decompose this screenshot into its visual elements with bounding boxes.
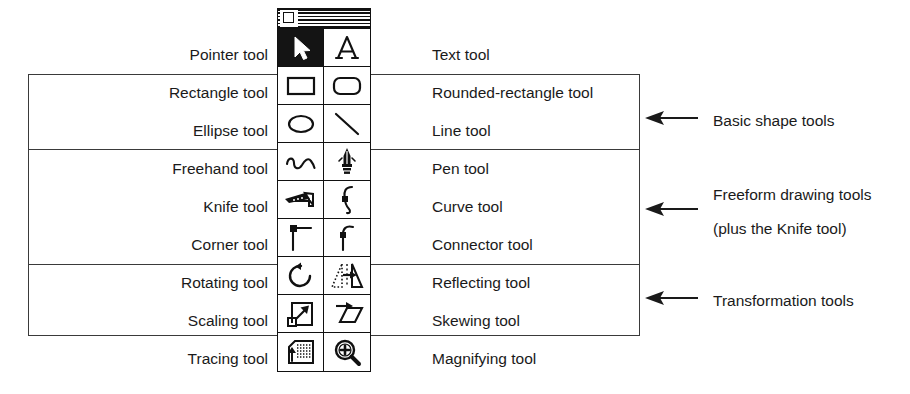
label-ellipse-tool: Ellipse tool [40, 112, 268, 150]
tool-cell-pointer[interactable] [278, 29, 324, 67]
close-box-icon[interactable] [283, 12, 294, 23]
magnifying-glass-plus-icon [331, 337, 363, 367]
callout-transformation-tools: Transformation tools [645, 284, 854, 318]
line-icon [331, 111, 363, 137]
tool-cell-magnifying[interactable] [324, 333, 370, 371]
callout-basic-label: Basic shape tools [713, 104, 835, 138]
label-freehand-tool: Freehand tool [40, 150, 268, 188]
rotate-arrow-icon [286, 261, 316, 291]
curve-icon [335, 184, 359, 216]
tool-cell-corner[interactable] [278, 219, 324, 257]
tool-cell-skewing[interactable] [324, 295, 370, 333]
tool-cell-knife[interactable] [278, 181, 324, 219]
tool-cell-ellipse[interactable] [278, 105, 324, 143]
tool-cell-line[interactable] [324, 105, 370, 143]
tool-palette-window[interactable] [277, 8, 371, 372]
tool-cell-rectangle[interactable] [278, 67, 324, 105]
rectangle-icon [285, 74, 317, 98]
callout-transform-label: Transformation tools [713, 284, 854, 318]
callout-freeform-label: Freeform drawing tools [713, 178, 872, 212]
left-arrow-icon [645, 110, 699, 126]
label-rotating-tool: Rotating tool [40, 264, 268, 302]
label-magnifying-tool: Magnifying tool [432, 340, 692, 378]
tool-cell-pen[interactable] [324, 143, 370, 181]
row-pointer-text: Pointer tool Text tool [0, 36, 910, 74]
tool-cell-freehand[interactable] [278, 143, 324, 181]
tool-cell-rotating[interactable] [278, 257, 324, 295]
ellipse-icon [285, 112, 317, 136]
tool-cell-connector[interactable] [324, 219, 370, 257]
rounded-rectangle-icon [331, 74, 363, 98]
tool-cell-rounded-rectangle[interactable] [324, 67, 370, 105]
label-scaling-tool: Scaling tool [40, 302, 268, 340]
tool-cell-tracing[interactable] [278, 333, 324, 371]
callout-basic-shape-tools: Basic shape tools [645, 104, 835, 138]
reflect-triangle-icon [330, 261, 364, 291]
tracing-icon [283, 337, 319, 367]
label-tracing-tool: Tracing tool [40, 340, 268, 378]
label-knife-tool: Knife tool [40, 188, 268, 226]
pointer-arrow-icon [288, 34, 314, 62]
label-text-tool: Text tool [432, 36, 692, 74]
callout-freeform-drawing-tools: Freeform drawing tools (plus the Knife t… [645, 178, 872, 246]
label-rectangle-tool: Rectangle tool [40, 74, 268, 112]
scale-arrow-icon [285, 299, 317, 329]
left-arrow-icon [645, 201, 699, 217]
label-pointer-tool: Pointer tool [40, 36, 268, 74]
row-tracing-magnifying: Tracing tool Magnifying tool [0, 340, 910, 378]
connector-icon [335, 223, 359, 253]
text-letter-a-icon [334, 34, 360, 62]
pen-nib-icon [336, 147, 358, 177]
skew-parallelogram-icon [330, 300, 364, 328]
tool-grid [277, 29, 371, 372]
label-corner-tool: Corner tool [40, 226, 268, 264]
tool-cell-scaling[interactable] [278, 295, 324, 333]
corner-icon [285, 223, 317, 253]
tool-cell-reflecting[interactable] [324, 257, 370, 295]
tool-cell-text[interactable] [324, 29, 370, 67]
freehand-squiggle-icon [283, 150, 319, 174]
knife-icon [283, 188, 319, 212]
left-arrow-icon [645, 290, 699, 306]
tool-cell-curve[interactable] [324, 181, 370, 219]
callout-freeform-sublabel: (plus the Knife tool) [713, 212, 872, 246]
window-title-bar[interactable] [277, 8, 371, 29]
